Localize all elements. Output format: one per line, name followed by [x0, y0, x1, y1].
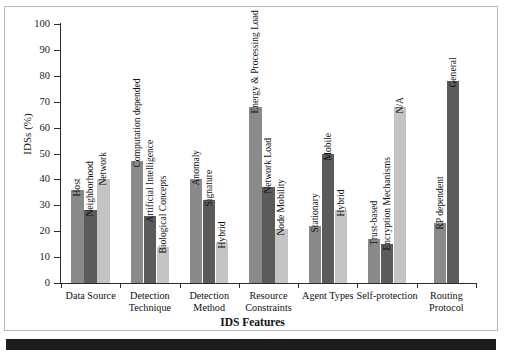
y-tick-mark — [54, 283, 60, 284]
x-tick-mark — [61, 283, 62, 288]
y-tick-label-wrap: 30 — [22, 200, 50, 211]
y-tick-mark — [54, 102, 60, 103]
bar-label: Energy & Processing Load — [251, 10, 261, 113]
y-tick-mark — [54, 179, 60, 180]
y-tick-label-wrap: 100 — [22, 19, 50, 30]
bar — [309, 226, 322, 283]
bar — [434, 223, 447, 283]
bar — [262, 187, 275, 283]
bar-label: Host — [73, 178, 83, 196]
y-tick-label: 70 — [24, 97, 50, 108]
bar-label: N/A — [395, 97, 405, 114]
y-tick-mark — [54, 205, 60, 206]
bar-label: General — [448, 57, 458, 87]
bar-label: Node Mobility — [277, 178, 287, 235]
x-tick-mark — [180, 283, 181, 288]
bar — [275, 229, 288, 283]
y-tick-label: 50 — [24, 149, 50, 160]
y-tick-label-wrap: 70 — [22, 97, 50, 108]
y-tick-mark — [54, 76, 60, 77]
y-tick-label-wrap: 50 — [22, 149, 50, 160]
x-tick-mark — [298, 283, 299, 288]
y-tick-label-wrap: 80 — [22, 71, 50, 82]
bar — [84, 210, 97, 283]
bar-label: Hybrid — [336, 190, 346, 217]
y-tick-label: 90 — [24, 45, 50, 56]
bar-label: Hybrid — [217, 221, 227, 248]
x-category-label-line: Protocol — [411, 302, 482, 314]
bar — [71, 190, 84, 283]
y-tick-mark — [54, 50, 60, 51]
bar-label: Signature — [204, 170, 214, 207]
y-tick-label: 60 — [24, 123, 50, 134]
y-tick-label-wrap: 20 — [22, 226, 50, 237]
x-axis-title: IDS Features — [0, 316, 505, 328]
bar — [190, 179, 203, 283]
y-tick-label-wrap: 90 — [22, 45, 50, 56]
bar-label: Biological Concepts — [158, 175, 168, 253]
bar-label: RP dependent — [435, 177, 445, 230]
bar — [335, 210, 348, 283]
bar-label: Network — [99, 152, 109, 186]
bar — [322, 154, 335, 284]
y-tick-label: 0 — [24, 278, 50, 289]
bar — [394, 107, 407, 283]
bar-label: Stationary — [310, 193, 320, 232]
y-tick-label-wrap: 0 — [22, 278, 50, 289]
bar-label: Trust-based — [369, 201, 379, 246]
y-tick-label-wrap: 40 — [22, 174, 50, 185]
bar — [203, 200, 216, 283]
scan-artifact-bar — [6, 339, 496, 350]
y-tick-label: 20 — [24, 226, 50, 237]
y-tick-mark — [54, 154, 60, 155]
bar-label: Computation depended — [132, 79, 142, 168]
bar — [131, 161, 144, 283]
bar-label: Artificial Intelligence — [145, 139, 155, 222]
y-tick-mark — [54, 24, 60, 25]
bar-label: Encryption Mechanisms — [382, 157, 392, 251]
bar — [97, 179, 110, 283]
bar — [144, 216, 157, 283]
bar-label: Mobile — [323, 132, 333, 160]
y-tick-label: 30 — [24, 200, 50, 211]
y-tick-label: 100 — [24, 19, 50, 30]
x-tick-mark — [120, 283, 121, 288]
bar-label: Anomaly — [191, 150, 201, 186]
x-tick-mark — [476, 283, 477, 288]
y-tick-label-wrap: 10 — [22, 252, 50, 263]
y-tick-mark — [54, 128, 60, 129]
x-category-label: RoutingProtocol — [411, 290, 482, 313]
y-tick-mark — [54, 231, 60, 232]
x-axis-line — [60, 283, 477, 284]
y-tick-label-wrap: 60 — [22, 123, 50, 134]
y-tick-mark — [54, 257, 60, 258]
chart-figure: IDSs (%) 0102030405060708090100 HostNeig… — [0, 0, 505, 363]
x-tick-mark — [417, 283, 418, 288]
y-tick-label: 40 — [24, 174, 50, 185]
bar — [249, 107, 262, 283]
plot-area: HostNeighborhoodNetworkComputation depen… — [61, 24, 476, 283]
bar-label: Neighborhood — [86, 162, 96, 217]
x-category-label-line: Routing — [411, 290, 482, 302]
x-tick-mark — [357, 283, 358, 288]
y-tick-label: 80 — [24, 71, 50, 82]
bar-label: Network Load — [264, 138, 274, 194]
y-tick-label: 10 — [24, 252, 50, 263]
x-category-label-line: Constraints — [233, 302, 304, 314]
bar — [447, 81, 460, 283]
x-tick-mark — [239, 283, 240, 288]
